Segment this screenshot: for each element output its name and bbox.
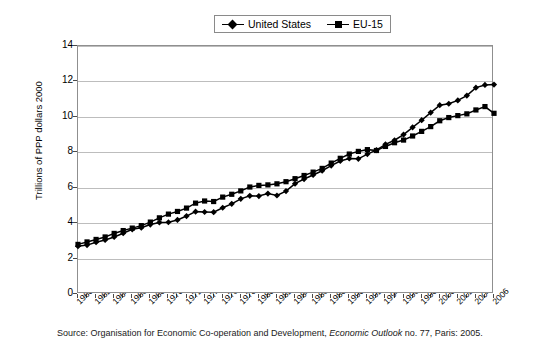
data-point [211, 209, 217, 215]
y-tick-label: 14 [53, 40, 73, 50]
data-point [491, 82, 497, 88]
data-point [356, 149, 361, 154]
data-point [247, 184, 252, 189]
data-point [329, 160, 334, 165]
series-layer [78, 46, 494, 294]
y-tick-label: 8 [53, 146, 73, 156]
data-point [193, 201, 198, 206]
data-point [184, 205, 189, 210]
series-line-united-states [78, 85, 494, 247]
data-point [482, 104, 487, 109]
data-point [355, 156, 361, 162]
data-point [93, 237, 98, 242]
diamond-marker-icon [222, 19, 244, 29]
data-point [75, 242, 80, 247]
data-point [256, 183, 261, 188]
data-point [121, 228, 126, 233]
data-point [84, 239, 89, 244]
data-point [274, 192, 280, 198]
legend-label-united-states: United States [248, 19, 311, 29]
data-point [247, 193, 253, 199]
legend-item-eu-15[interactable]: EU-15 [327, 19, 383, 29]
data-point [175, 209, 180, 214]
data-point [491, 111, 496, 116]
data-point [112, 231, 117, 236]
chart-legend: United States EU-15 [214, 15, 391, 33]
y-axis-title: Trillions of PPP dollars 2000 [33, 41, 44, 241]
y-tick-label: 10 [53, 111, 73, 121]
y-tick-label: 4 [53, 217, 73, 227]
data-point [473, 107, 478, 112]
data-point [265, 182, 270, 187]
legend-item-united-states[interactable]: United States [222, 19, 311, 29]
data-point [410, 133, 415, 138]
data-point [274, 181, 279, 186]
data-point [220, 195, 225, 200]
source-suffix: no. 77, Paris: 2005. [402, 328, 483, 338]
y-tick-label: 0 [53, 288, 73, 298]
data-point [174, 217, 180, 223]
data-point [220, 205, 226, 211]
source-prefix: Source: Organisation for Economic Co-ope… [57, 328, 329, 338]
legend-label-eu-15: EU-15 [353, 19, 383, 29]
data-point [165, 219, 171, 225]
data-point [202, 198, 207, 203]
data-point [265, 190, 271, 196]
data-point [292, 176, 297, 181]
data-point [229, 192, 234, 197]
data-point [455, 113, 460, 118]
data-point [464, 111, 469, 116]
data-point [183, 213, 189, 219]
data-point [428, 124, 433, 129]
data-point [103, 234, 108, 239]
square-marker-icon [327, 19, 349, 29]
data-point [482, 82, 488, 88]
data-point [238, 196, 244, 202]
data-point [202, 209, 208, 215]
data-point [401, 137, 406, 142]
source-italic: Economic Outlook [329, 328, 402, 338]
data-point [256, 193, 262, 199]
data-point [238, 188, 243, 193]
data-point [374, 148, 379, 153]
source-note: Source: Organisation for Economic Co-ope… [57, 328, 483, 339]
y-tick-label: 6 [53, 182, 73, 192]
data-point [338, 156, 343, 161]
data-point [166, 212, 171, 217]
data-point [229, 201, 235, 207]
data-point [383, 144, 388, 149]
data-point [157, 215, 162, 220]
data-point [301, 173, 306, 178]
y-tick-label: 12 [53, 75, 73, 85]
data-point [192, 209, 198, 215]
data-point [130, 226, 135, 231]
data-point [365, 147, 370, 152]
data-point [446, 101, 452, 107]
chart-figure: United States EU-15 Trillions of PPP dol… [0, 0, 540, 349]
plot-area [77, 45, 493, 293]
data-point [419, 129, 424, 134]
data-point [311, 170, 316, 175]
data-point [139, 223, 144, 228]
data-point [148, 219, 153, 224]
data-point [392, 140, 397, 145]
data-point [437, 118, 442, 123]
data-point [446, 115, 451, 120]
data-point [455, 97, 461, 103]
data-point [283, 179, 288, 184]
data-point [347, 151, 352, 156]
data-point [211, 199, 216, 204]
y-tick-label: 2 [53, 253, 73, 263]
data-point [320, 166, 325, 171]
